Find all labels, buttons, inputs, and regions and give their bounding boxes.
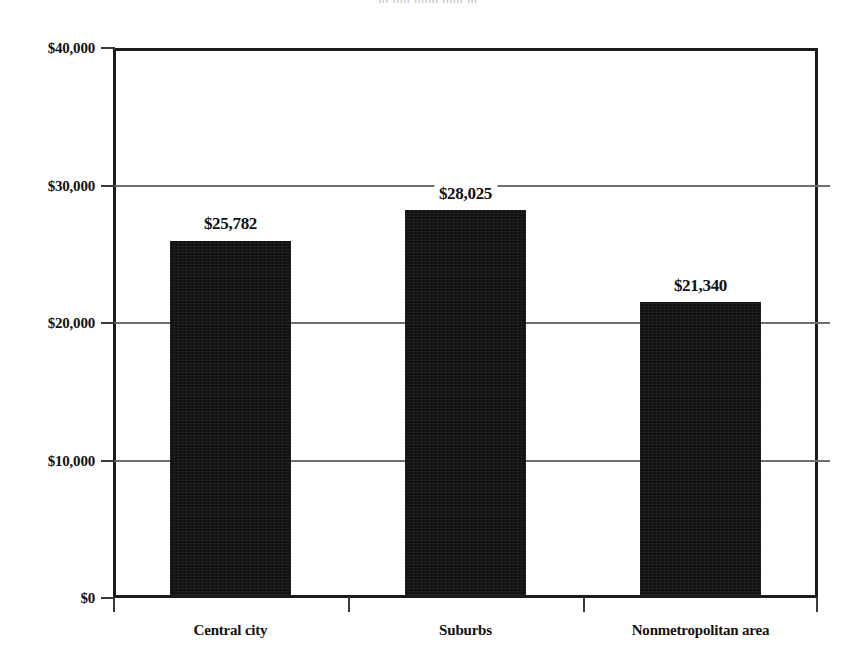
x-axis-line [113, 595, 818, 598]
y-tick-40000 [101, 47, 115, 49]
x-axis-category-label-3: Nonmetropolitan area [632, 622, 770, 639]
plot-frame-top [113, 48, 818, 51]
y-axis-label-40000: $40,000 [48, 40, 95, 57]
bar-1 [170, 241, 291, 596]
x-tick-2 [583, 597, 585, 612]
bar-2 [405, 210, 526, 595]
y-axis-label-20000: $20,000 [48, 315, 95, 332]
chart-figure: ||| ||||| ||||||| |||||| ||| $0$10,000$2… [0, 0, 856, 668]
x-axis-category-label-2: Suburbs [439, 622, 492, 639]
x-tick-1 [348, 597, 350, 612]
x-axis-category-label-1: Central city [194, 622, 268, 639]
cropped-title-remnant: ||| ||||| ||||||| |||||| ||| [0, 0, 856, 3]
x-tick-0 [113, 597, 115, 612]
y-tick-10000 [101, 460, 115, 462]
bar-value-label-3: $21,340 [669, 276, 732, 296]
x-tick-3 [816, 597, 818, 612]
y-tick-20000 [101, 322, 115, 324]
bar-value-label-2: $28,025 [434, 184, 497, 204]
bar-3 [640, 302, 761, 595]
bar-value-label-1: $25,782 [199, 214, 262, 234]
y-axis-label-30000: $30,000 [48, 177, 95, 194]
plot-area: $0$10,000$20,000$30,000$40,000 $25,782$2… [113, 48, 818, 598]
y-axis-label-0: $0 [80, 590, 95, 607]
y-axis-label-10000: $10,000 [48, 452, 95, 469]
y-tick-30000 [101, 185, 115, 187]
